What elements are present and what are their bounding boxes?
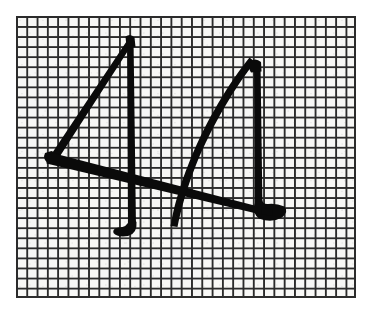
graph-paper-sheet [16, 16, 356, 298]
sketch-canvas [0, 0, 372, 314]
